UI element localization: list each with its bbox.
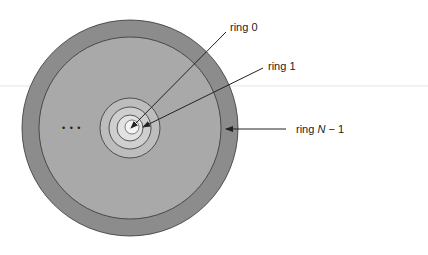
ring-n-var: N: [317, 123, 325, 135]
ring-n-minus-1-label: ring N − 1: [296, 123, 344, 135]
ring-diagram: • • • ring 0 ring 1 ring N − 1: [0, 0, 428, 255]
ring-n-suffix: − 1: [325, 123, 344, 135]
ellipsis: • • •: [62, 123, 81, 133]
ring-1-label: ring 1: [268, 60, 296, 72]
ring-n-prefix: ring: [296, 123, 317, 135]
ring-0-label: ring 0: [230, 21, 258, 33]
